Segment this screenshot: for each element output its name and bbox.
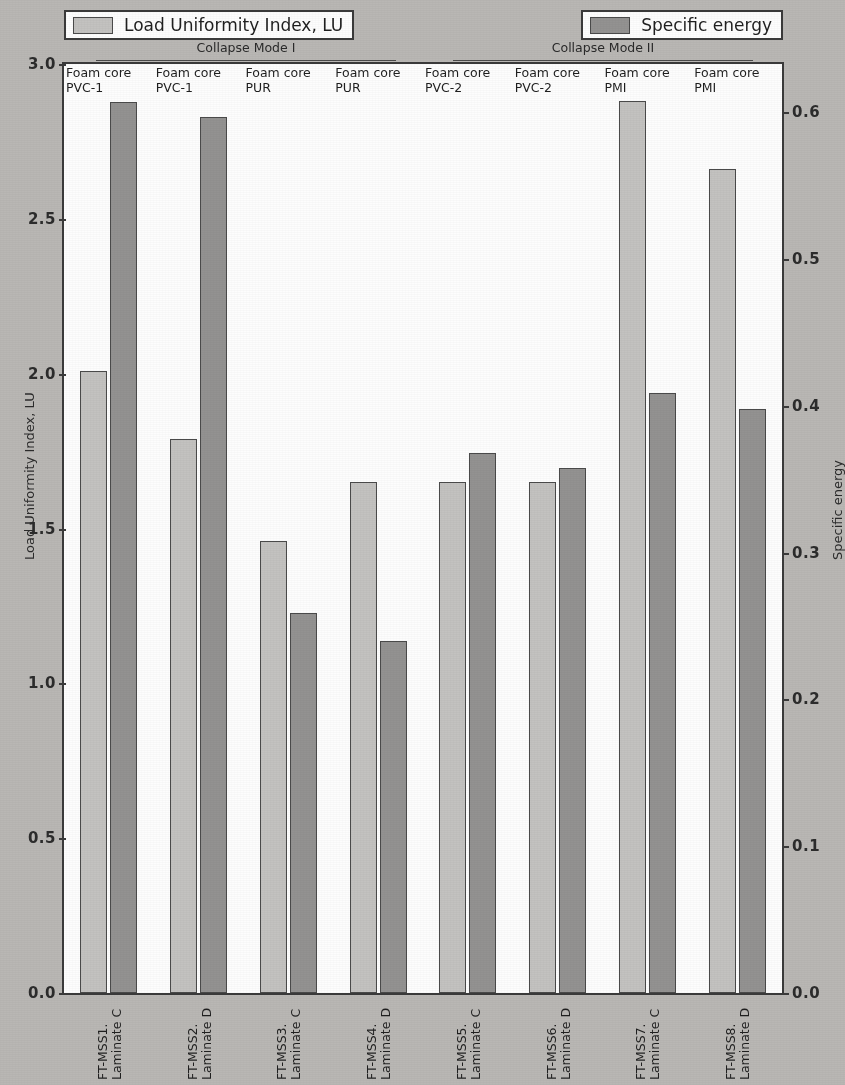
core-label-line1: Foam core [335,66,400,81]
x-tick-label-line2: Laminate D [379,1008,393,1080]
left-tick-mark [59,993,66,995]
bar-group [260,64,317,993]
core-label-line2: PMI [605,81,670,96]
annotation-rule-mode-1 [96,60,396,61]
bar-specific-energy [200,117,227,993]
chart-figure: 0.00.51.01.52.02.53.0 0.00.10.20.30.40.5… [0,0,845,1085]
legend-load-uniformity[interactable]: Load Uniformity Index, LU [64,10,354,40]
bar-specific-energy [739,409,766,993]
left-tick-mark [59,529,66,531]
left-tick-label: 2.5 [10,210,56,228]
core-label: Foam corePVC-2 [425,66,490,95]
legend-label-lu: Load Uniformity Index, LU [124,15,343,35]
core-label-line2: PVC-1 [156,81,221,96]
right-tick-mark [782,406,789,408]
core-label-line1: Foam core [515,66,580,81]
x-tick-label: FT-MSS8.Laminate D [724,1008,752,1080]
x-tick-label-line2: Laminate C [469,1009,483,1080]
bar-load-uniformity [350,482,377,993]
x-tick-label: FT-MSS4.Laminate D [365,1008,393,1080]
bar-group [709,64,766,993]
x-tick-label-line1: FT-MSS1. [96,1009,110,1080]
core-label: Foam corePVC-2 [515,66,580,95]
core-label-line1: Foam core [605,66,670,81]
left-tick-label: 3.0 [10,55,56,73]
core-label: Foam corePUR [335,66,400,95]
core-label-line2: PVC-2 [515,81,580,96]
bar-load-uniformity [619,101,646,993]
annotation-collapse-mode-2: Collapse Mode II [453,40,753,55]
right-tick-mark [782,259,789,261]
core-label-line1: Foam core [425,66,490,81]
bar-load-uniformity [439,482,466,993]
x-tick-label: FT-MSS7.Laminate C [634,1009,662,1080]
core-label-line2: PMI [694,81,759,96]
x-tick-label-line2: Laminate D [200,1008,214,1080]
x-tick-label-line1: FT-MSS2. [186,1008,200,1080]
bar-load-uniformity [170,439,197,993]
x-tick-label-line1: FT-MSS6. [545,1008,559,1080]
core-label-line1: Foam core [66,66,131,81]
right-axis-title: Specific energy [830,460,845,560]
bar-group [619,64,676,993]
right-tick-label: 0.2 [792,690,842,708]
core-label-line2: PVC-2 [425,81,490,96]
left-tick-mark [59,683,66,685]
annotation-rule-mode-2 [453,60,753,61]
x-tick-label: FT-MSS3.Laminate C [275,1009,303,1080]
bar-specific-energy [380,641,407,993]
x-tick-label-line2: Laminate C [648,1009,662,1080]
left-tick-mark [59,64,66,66]
left-tick-mark [59,374,66,376]
bar-load-uniformity [260,541,287,993]
right-tick-mark [782,993,789,995]
core-label: Foam corePMI [605,66,670,95]
bar-group [80,64,137,993]
left-tick-label: 2.0 [10,365,56,383]
annotation-collapse-mode-1: Collapse Mode I [96,40,396,55]
right-tick-mark [782,112,789,114]
x-tick-label-line1: FT-MSS5. [455,1009,469,1080]
x-tick-label-line2: Laminate C [110,1009,124,1080]
legend-swatch-se-icon [590,17,630,34]
legend-specific-energy[interactable]: Specific energy [581,10,783,40]
x-tick-label-line2: Laminate D [559,1008,573,1080]
right-tick-label: 0.4 [792,397,842,415]
core-label: Foam corePVC-1 [156,66,221,95]
right-tick-label: 0.0 [792,984,842,1002]
x-tick-label: FT-MSS1.Laminate C [96,1009,124,1080]
left-axis-title: Load Uniformity Index, LU [22,392,37,560]
left-tick-mark [59,219,66,221]
bar-group [170,64,227,993]
left-tick-label: 0.5 [10,829,56,847]
x-tick-label-line2: Laminate C [289,1009,303,1080]
x-tick-label-line2: Laminate D [738,1008,752,1080]
bar-specific-energy [110,102,137,993]
bar-specific-energy [469,453,496,993]
core-label-line2: PVC-1 [66,81,131,96]
left-tick-label: 0.0 [10,984,56,1002]
left-tick-label: 1.0 [10,674,56,692]
bar-load-uniformity [80,371,107,993]
core-label-line2: PUR [335,81,400,96]
bar-load-uniformity [709,169,736,993]
core-label-line2: PUR [246,81,311,96]
bar-load-uniformity [529,482,556,993]
core-label: Foam corePVC-1 [66,66,131,95]
right-tick-label: 0.6 [792,103,842,121]
x-tick-label: FT-MSS6.Laminate D [545,1008,573,1080]
bars-layer [64,64,782,993]
core-label-line1: Foam core [156,66,221,81]
right-tick-mark [782,846,789,848]
core-label-line1: Foam core [246,66,311,81]
legend-swatch-lu-icon [73,17,113,34]
bar-group [439,64,496,993]
legend-label-se: Specific energy [641,15,772,35]
x-tick-label: FT-MSS5.Laminate C [455,1009,483,1080]
bar-specific-energy [559,468,586,993]
x-tick-label: FT-MSS2.Laminate D [186,1008,214,1080]
bar-group [350,64,407,993]
right-tick-label: 0.1 [792,837,842,855]
core-label: Foam corePUR [246,66,311,95]
right-tick-mark [782,553,789,555]
